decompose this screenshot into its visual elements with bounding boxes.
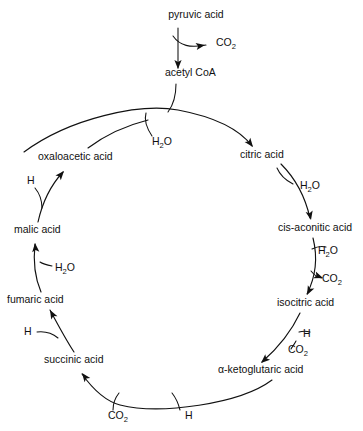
krebs-cycle-canvas: citric acidcis-aconitic acidisocitric ac… [0,0,363,431]
cofactor-label-water-fumaric-malic: H2O [55,261,75,276]
arc-acetyl-to-citric [24,108,252,152]
metabolite-label-citric: citric acid [240,148,284,160]
cofactor-label-water-acetyl-citric: H2O [152,135,172,150]
cofactor-label-water-cisaconitic-isocitric: H2O [318,244,338,259]
arrowhead-to-isocitric [304,285,315,296]
cofactor-label-hydrogen-malic-oxaloacetic: H [27,174,35,186]
arc-oxaloacetic-to-top [88,120,148,148]
metabolite-label-cis-aconitic: cis-aconitic acid [278,221,352,233]
metabolite-label-malic: malic acid [14,223,61,235]
metabolite-label-alpha-ketoglutaric: α-ketoglutaric acid [218,363,304,375]
cofactor-label-layer: H2OH2OH2OCO2HCO2HCO2HH2OH [24,135,342,424]
metabolite-label-pyruvic-acid: pyruvic acid [168,8,224,20]
cofactor-label-co2-ketoglutaric-succinic: CO2 [108,409,128,424]
cofactor-label-co2-cisaconitic-isocitric: CO2 [322,272,342,287]
cofactor-label-water-citric-cisaconitic: H2O [300,179,320,194]
metabolite-label-acetyl-coa: acetyl CoA [165,66,216,78]
branch-h-in-oxaloacetic [35,188,42,208]
arrowhead-glyph [306,210,315,220]
branch-water-out-fumaric [40,262,52,266]
arrowhead-to-succinic [79,371,90,383]
cofactor-label-co2-isocitric-ketoglutaric: CO2 [288,343,308,358]
cofactor-label-hydrogen-isocitric-ketoglutaric: H [303,327,311,339]
cofactor-label-hydrogen-ketoglutaric-succinic: H [185,409,193,421]
metabolite-label-oxaloacetic: oxaloacetic acid [38,150,113,162]
metabolite-label-isocitric: isocitric acid [277,296,334,308]
metabolite-label-fumaric: fumaric acid [7,293,64,305]
arrowhead-layer [31,41,324,382]
entry-pathway-layer: pyruvic acidCO2acetyl CoA [165,8,236,78]
arrowhead-glyph [79,371,90,383]
arc-cisaconitic-to-isocitric [307,238,315,294]
branch-acetyl-down [168,84,176,112]
arrowhead-to-cisaconitic [306,210,315,220]
arc-succinic-to-fumaric [50,310,74,352]
arrowhead-glyph [31,243,39,253]
arrowhead-to-malic [31,243,39,253]
branch-water-in-citric [145,113,152,136]
arrowhead-to-fumaric [47,308,58,319]
branch-co2-out-succinic [113,393,119,410]
arc-fumaric-to-malic [34,244,41,292]
krebs-cycle-diagram: citric acidcis-aconitic acidisocitric ac… [0,0,363,431]
metabolite-label-succinic: succinic acid [44,353,104,365]
arrowhead-glyph [47,308,58,319]
arc-citric-to-cisaconitic [281,164,310,218]
arc-malic-to-oxaloacetic [38,172,63,222]
arrowhead-glyph [304,285,315,296]
arc-ketoglutaric-to-succinic [82,374,272,409]
branch-h-in-succinic [172,393,180,410]
cofactor-label-hydrogen-succinic-fumaric: H [24,325,32,337]
cofactor-label-co2-pyruvate-decarboxylation: CO2 [216,36,236,51]
branch-h-in-fumaric [37,332,58,338]
